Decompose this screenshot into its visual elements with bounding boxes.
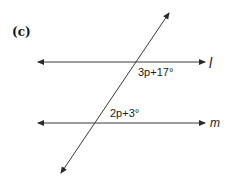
parallel-lines-transversal-diagram: (c) l m 3p+17° 2p+3° (0, 0, 230, 184)
transversal-line (61, 13, 169, 173)
part-label: (c) (12, 25, 31, 39)
angle-label-2p-plus-3: 2p+3° (110, 107, 139, 119)
angle-label-3p-plus-17: 3p+17° (138, 66, 173, 78)
line-m-label: m (210, 116, 220, 130)
line-l-label: l (209, 55, 213, 71)
